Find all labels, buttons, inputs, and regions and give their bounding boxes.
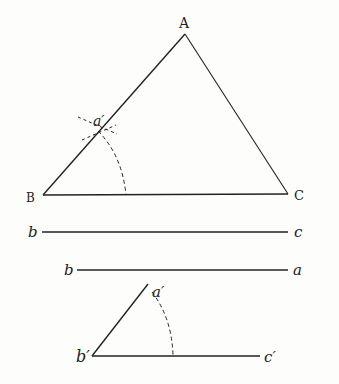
arc-angle-b	[98, 131, 126, 195]
label-a-prime: a′	[93, 113, 105, 129]
label-b-prime: b′	[76, 347, 90, 366]
side-bc	[43, 194, 288, 195]
label-c-prime: c′	[264, 348, 276, 366]
arc-copy	[152, 292, 173, 356]
side-ab	[43, 34, 185, 195]
label-c1: c	[294, 223, 303, 241]
geometry-figure: A B C a′ b c b a a′ b′ c′	[0, 0, 339, 384]
label-b2: b	[64, 261, 74, 279]
label-a2: a	[293, 261, 302, 279]
side-ac	[185, 34, 288, 194]
label-C: C	[294, 188, 304, 203]
segment-b-a-prime	[92, 284, 148, 356]
construction-diagram: A B C a′ b c b a a′ b′ c′	[0, 0, 339, 384]
label-A: A	[178, 15, 190, 31]
label-B: B	[26, 191, 35, 205]
label-b1: b	[28, 223, 38, 241]
label-a-prime-copy: a′	[152, 283, 165, 301]
